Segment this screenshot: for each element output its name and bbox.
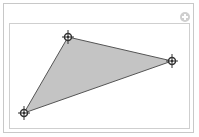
triangle-polygon[interactable] <box>24 37 172 113</box>
crosshair-locator-icon[interactable] <box>166 54 178 68</box>
polygon-canvas <box>0 0 199 137</box>
